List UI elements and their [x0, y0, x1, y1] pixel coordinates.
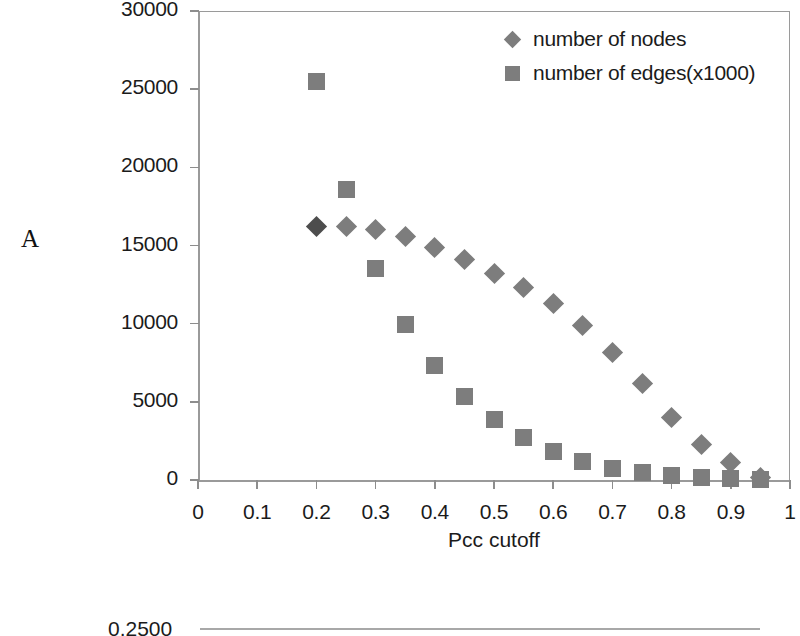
x-tick-label: 0.4: [405, 500, 465, 524]
next-panel-rule: [200, 628, 760, 630]
x-tick-mark: [316, 480, 318, 489]
x-tick-mark: [789, 480, 791, 489]
y-tick-mark: [190, 323, 199, 325]
data-point-square: [338, 181, 355, 198]
legend-item: number of nodes: [505, 22, 755, 56]
data-point-square: [722, 470, 739, 487]
x-tick-label: 0.9: [701, 500, 761, 524]
data-point-square: [574, 453, 591, 470]
legend-item: number of edges(x1000): [505, 56, 755, 90]
next-panel-fragment: 0.2500: [108, 617, 798, 636]
legend-diamond-icon: [504, 30, 521, 47]
data-point-square: [515, 429, 532, 446]
data-point-square: [604, 460, 621, 477]
data-point-square: [634, 464, 651, 481]
data-point-square: [545, 443, 562, 460]
x-tick-label: 0.2: [286, 500, 346, 524]
data-point-square: [693, 469, 710, 486]
x-tick-mark: [612, 480, 614, 489]
y-tick-mark: [190, 88, 199, 90]
data-point-square: [752, 471, 769, 488]
x-tick-label: 1: [760, 500, 800, 524]
y-tick-label: 25000: [92, 75, 178, 99]
x-axis-title: Pcc cutoff: [198, 528, 790, 552]
x-tick-mark: [434, 480, 436, 489]
x-tick-label: 0.5: [464, 500, 524, 524]
y-tick-mark: [190, 401, 199, 403]
next-panel-tick-label: 0.2500: [108, 617, 172, 636]
x-tick-mark: [493, 480, 495, 489]
data-point-square: [426, 357, 443, 374]
x-tick-label: 0.3: [346, 500, 406, 524]
x-tick-label: 0.6: [523, 500, 583, 524]
y-tick-mark: [190, 10, 199, 12]
data-point-square: [456, 388, 473, 405]
x-tick-mark: [375, 480, 377, 489]
y-tick-label: 15000: [92, 232, 178, 256]
panel-letter-label: A: [10, 225, 50, 253]
data-point-square: [308, 73, 325, 90]
x-tick-mark: [197, 480, 199, 489]
x-tick-label: 0.7: [582, 500, 642, 524]
x-tick-label: 0.1: [227, 500, 287, 524]
y-tick-label: 0: [92, 466, 178, 490]
data-point-square: [397, 316, 414, 333]
y-tick-mark: [190, 167, 199, 169]
data-point-square: [367, 260, 384, 277]
data-point-square: [486, 411, 503, 428]
x-tick-label: 0.8: [642, 500, 702, 524]
legend-item-label: number of edges(x1000): [533, 61, 755, 85]
chart-legend: number of nodesnumber of edges(x1000): [505, 22, 755, 90]
x-tick-mark: [552, 480, 554, 489]
y-tick-mark: [190, 245, 199, 247]
y-tick-label: 20000: [92, 153, 178, 177]
data-point-square: [663, 467, 680, 484]
y-tick-label: 10000: [92, 310, 178, 334]
legend-item-label: number of nodes: [533, 27, 686, 51]
legend-square-icon: [505, 66, 520, 81]
figure-panel-a: A 050001000015000200002500030000 00.10.2…: [0, 0, 800, 636]
x-tick-mark: [256, 480, 258, 489]
y-tick-label: 5000: [92, 388, 178, 412]
x-tick-label: 0: [168, 500, 228, 524]
y-tick-label: 30000: [92, 0, 178, 21]
